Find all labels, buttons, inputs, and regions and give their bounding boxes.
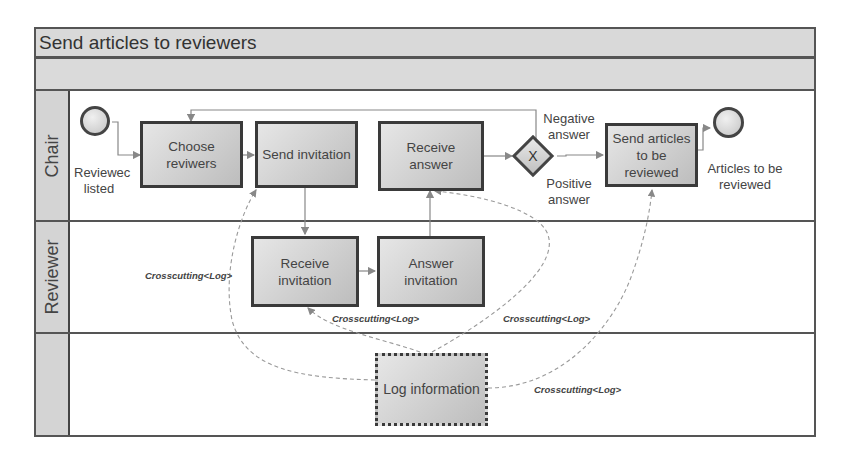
task-send-articles[interactable]: Send articlesto bereviewed	[605, 123, 698, 187]
pool-title-band: Send articles to reviewers	[34, 27, 816, 58]
crosscutting-label: Crosscutting<Log>	[503, 313, 590, 324]
start-event-icon[interactable]	[80, 106, 110, 136]
task-choose-reviewers[interactable]: Choosereviwers	[140, 121, 243, 188]
task-receive-answer[interactable]: Receiveanswer	[378, 121, 484, 191]
lane-name-chair: Chair	[42, 134, 63, 177]
crosscutting-label: Crosscutting<Log>	[534, 384, 621, 395]
end-event-label: Articles to be reviewed	[702, 161, 788, 193]
gateway-x-symbol: X	[513, 148, 553, 164]
end-event-icon[interactable]	[713, 107, 744, 138]
lane-label-system	[36, 334, 70, 435]
start-event-label: Reviewec listed	[74, 165, 124, 197]
task-send-invitation[interactable]: Send invitation	[255, 121, 358, 188]
task-receive-invitation[interactable]: Receiveinvitation	[251, 236, 359, 307]
crosscutting-label: Crosscutting<Log>	[332, 313, 419, 324]
lane-label-chair: Chair	[36, 91, 70, 220]
positive-answer-label: Positive answer	[540, 176, 598, 208]
pool-header-band	[34, 57, 816, 91]
negative-answer-label: Negative answer	[540, 111, 598, 143]
task-answer-invitation[interactable]: Answerinvitation	[377, 236, 485, 307]
lane-label-reviewer: Reviewer	[36, 222, 70, 332]
crosscutting-label: Crosscutting<Log>	[145, 270, 232, 281]
lane-name-reviewer: Reviewer	[42, 239, 63, 314]
task-log-information[interactable]: Log information	[375, 353, 488, 426]
pool-title: Send articles to reviewers	[39, 32, 257, 54]
